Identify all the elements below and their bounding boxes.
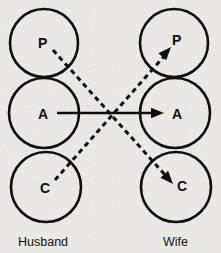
wife-parent-letter: P — [172, 32, 181, 48]
husband-child-letter: C — [40, 180, 50, 196]
wife-adult-letter: A — [172, 106, 182, 122]
husband-label: Husband — [18, 235, 68, 249]
husband-adult-letter: A — [38, 106, 48, 122]
child-to-parent-arrowhead — [158, 47, 171, 60]
husband-column: P A C — [9, 9, 81, 222]
crossed-transaction-diagram: P A C P A C — [0, 0, 221, 253]
wife-child-circle — [141, 152, 211, 222]
transaction-vectors — [53, 47, 173, 184]
wife-label: Wife — [163, 235, 188, 249]
wife-column: P A C — [140, 9, 211, 222]
husband-parent-letter: P — [38, 35, 47, 51]
wife-child-letter: C — [177, 178, 187, 194]
adult-to-adult-arrowhead — [151, 108, 164, 118]
ta-diagram-page: P A C P A C — [0, 0, 221, 253]
